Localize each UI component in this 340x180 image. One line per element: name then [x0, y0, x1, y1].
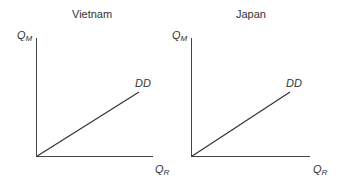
- dd-curve: [37, 92, 140, 157]
- x-axis-label: QR: [313, 163, 327, 177]
- curve-label: DD: [286, 77, 302, 89]
- panel-japan: Japan QM DD QR: [170, 0, 340, 180]
- axes-and-curve: [0, 0, 170, 180]
- dd-curve: [192, 92, 291, 157]
- panel-vietnam: Vietnam QM DD QR: [0, 0, 170, 180]
- curve-label: DD: [135, 77, 151, 89]
- x-axis-label: QR: [155, 163, 169, 177]
- axes-and-curve: [170, 0, 340, 180]
